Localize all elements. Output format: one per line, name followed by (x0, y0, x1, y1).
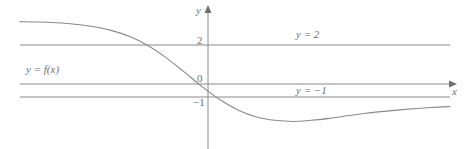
function-curve-label: y = f(x) (26, 64, 59, 75)
x-axis-label: x (452, 86, 457, 97)
y-axis-arrowhead-icon (205, 5, 212, 13)
math-figure: y = 2 y = −1 y = f(x) y x 2 0 −1 (0, 0, 467, 149)
function-curve (20, 22, 450, 122)
y-tick-label-minus-1: −1 (193, 97, 205, 108)
y-tick-label-0: 0 (197, 73, 203, 84)
asymptote-upper-label: y = 2 (296, 29, 319, 40)
asymptote-lower-label: y = −1 (296, 85, 327, 96)
plot-area (0, 0, 467, 149)
y-tick-label-2: 2 (197, 35, 203, 46)
y-axis-label: y (196, 5, 201, 16)
